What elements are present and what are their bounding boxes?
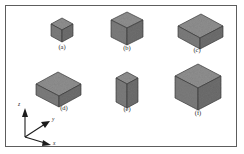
figure-canvas: (a) (b) (c) <box>0 0 244 154</box>
shape-a-label: (a) <box>58 44 65 51</box>
x-axis-label: x <box>53 141 55 147</box>
shape-c-label: (c) <box>193 47 200 54</box>
shape-f-label: (f) <box>195 110 202 117</box>
shape-b-label: (b) <box>123 45 131 52</box>
shape-e-label: (e) <box>123 106 130 113</box>
z-axis-label: z <box>18 102 20 108</box>
shape-d-label: (d) <box>60 105 68 112</box>
y-axis-label: y <box>52 117 54 123</box>
